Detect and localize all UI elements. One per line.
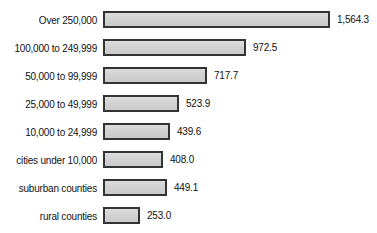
bar-group: 523.9 [103, 95, 211, 112]
bar-group: 717.7 [103, 67, 239, 84]
bar-row: suburban counties 449.1 [0, 177, 377, 199]
bar-group: 1,564.3 [103, 11, 371, 28]
bar [103, 67, 207, 84]
bar-row: cities under 10,000 408.0 [0, 149, 377, 171]
bar [103, 123, 170, 140]
bar [103, 207, 140, 224]
bar-row: rural counties 253.0 [0, 205, 377, 227]
bar [103, 39, 246, 56]
category-label: 100,000 to 249,999 [5, 37, 97, 59]
category-label: 25,000 to 49,999 [5, 93, 97, 115]
value-label: 439.6 [177, 123, 201, 140]
category-label: suburban counties [5, 177, 97, 199]
category-label: cities under 10,000 [5, 149, 97, 171]
value-label: 523.9 [186, 95, 210, 112]
bar-row: 50,000 to 99,999 717.7 [0, 65, 377, 87]
bar-group: 439.6 [103, 123, 202, 140]
category-label: 10,000 to 24,999 [5, 121, 97, 143]
category-label: 50,000 to 99,999 [5, 65, 97, 87]
value-label: 972.5 [253, 39, 277, 56]
bar [103, 179, 167, 196]
value-label: 1,564.3 [337, 11, 369, 28]
bar [103, 151, 163, 168]
bar-group: 972.5 [103, 39, 278, 56]
bar-group: 449.1 [103, 179, 199, 196]
bar-group: 253.0 [103, 207, 172, 224]
plot-area: Over 250,000 1,564.3 100,000 to 249,999 … [0, 0, 377, 233]
value-label: 408.0 [170, 151, 194, 168]
bar [103, 95, 179, 112]
value-label: 253.0 [147, 207, 171, 224]
bar-row: Over 250,000 1,564.3 [0, 9, 377, 31]
bar-row: 100,000 to 249,999 972.5 [0, 37, 377, 59]
bar-chart: Over 250,000 1,564.3 100,000 to 249,999 … [0, 0, 377, 233]
bar-row: 10,000 to 24,999 439.6 [0, 121, 377, 143]
bar [103, 11, 330, 28]
value-label: 449.1 [174, 179, 198, 196]
category-label: rural counties [5, 205, 97, 227]
category-label: Over 250,000 [5, 9, 97, 31]
bar-group: 408.0 [103, 151, 195, 168]
value-label: 717.7 [214, 67, 238, 84]
bar-row: 25,000 to 49,999 523.9 [0, 93, 377, 115]
